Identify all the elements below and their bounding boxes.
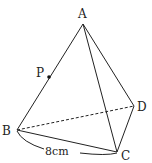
- edge-AC: [83, 24, 117, 152]
- label-C: C: [121, 149, 130, 163]
- measurement-label: 8cm: [45, 145, 69, 158]
- tetrahedron-diagram: A B C D P 8cm: [0, 0, 152, 163]
- edge-CD: [117, 106, 134, 152]
- edge-BD-hidden: [17, 106, 134, 130]
- point-P: [47, 75, 51, 79]
- label-P: P: [36, 66, 44, 80]
- edge-AD: [83, 24, 134, 106]
- label-D: D: [137, 100, 147, 114]
- label-A: A: [77, 7, 87, 21]
- label-B: B: [2, 124, 11, 138]
